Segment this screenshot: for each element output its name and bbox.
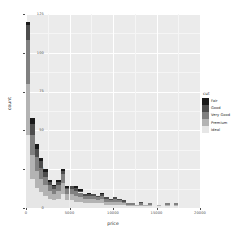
bar-segment — [157, 205, 161, 207]
y-tick-mark — [23, 92, 25, 93]
bar-segment — [100, 194, 104, 196]
y-tick-mark — [23, 53, 25, 54]
bar-segment — [174, 206, 178, 208]
bar-segment — [48, 180, 52, 182]
x-tick-mark — [113, 208, 114, 210]
x-tick-mark — [26, 208, 27, 210]
legend-key — [202, 105, 209, 112]
legend-swatch-icon — [202, 126, 209, 133]
x-tick-label: 20000 — [188, 211, 212, 215]
bar-segment — [100, 193, 104, 195]
bar-segment — [43, 172, 47, 177]
legend-title: cut — [203, 91, 245, 96]
x-tick-label: 15000 — [145, 211, 169, 215]
legend-label: Premium — [211, 121, 227, 125]
bar-segment — [61, 171, 65, 174]
bar-series-group — [26, 14, 200, 208]
bar-segment — [139, 202, 143, 204]
x-axis-label: price — [26, 221, 200, 226]
bar-segment — [43, 169, 47, 172]
y-tick-mark — [23, 14, 25, 15]
legend-items: FairGoodVery GoodPremiumIdeal — [202, 98, 245, 134]
bar-segment — [61, 174, 65, 183]
bar-segment — [174, 205, 178, 207]
legend-swatch-icon — [202, 112, 209, 119]
bar-segment — [165, 205, 169, 207]
bar-segment — [30, 118, 34, 124]
plot-panel — [26, 14, 200, 208]
y-tick-label: 125 — [37, 12, 44, 16]
bar-segment — [78, 189, 82, 191]
bar-segment — [26, 25, 30, 41]
legend-key — [202, 119, 209, 126]
x-tick-label: 0 — [14, 211, 38, 215]
y-tick-label: 0 — [42, 206, 44, 210]
bar-segment — [74, 186, 78, 188]
legend-item-fair: Fair — [202, 98, 245, 105]
y-tick-mark — [23, 169, 25, 170]
y-tick-mark — [23, 208, 25, 209]
bar-segment — [30, 124, 34, 135]
bar-segment — [174, 203, 178, 205]
legend-swatch-icon — [202, 119, 209, 126]
bar-segment — [165, 206, 169, 208]
x-tick-mark — [157, 208, 158, 210]
bar-segment — [39, 158, 43, 161]
bar-segment — [78, 191, 82, 193]
y-tick-label: 75 — [39, 89, 44, 93]
legend-label: Good — [211, 106, 221, 110]
y-axis-label: count — [7, 84, 12, 124]
legend-swatch-icon — [202, 98, 209, 105]
x-tick-label: 5000 — [58, 211, 82, 215]
histogram-bar — [174, 203, 178, 208]
histogram-bar — [148, 203, 152, 208]
bar-segment — [35, 149, 39, 157]
legend-item-good: Good — [202, 105, 245, 112]
bar-segment — [26, 40, 30, 83]
x-tick-label: 10000 — [101, 211, 125, 215]
y-tick-label: 50 — [39, 128, 44, 132]
legend-item-very-good: Very Good — [202, 112, 245, 119]
legend-item-ideal: Ideal — [202, 126, 245, 133]
legend-label: Ideal — [211, 128, 220, 132]
bar-segment — [148, 205, 152, 207]
legend-key — [202, 126, 209, 133]
bar-segment — [165, 203, 169, 205]
x-tick-mark — [70, 208, 71, 210]
bar-segment — [35, 144, 39, 149]
bar-segment — [148, 206, 152, 208]
legend: cut FairGoodVery GoodPremiumIdeal — [202, 91, 245, 133]
y-tick-label: 25 — [39, 167, 44, 171]
legend-key — [202, 98, 209, 105]
y-tick-mark — [23, 130, 25, 131]
bar-segment — [26, 22, 30, 25]
legend-swatch-icon — [202, 105, 209, 112]
histogram-bar — [165, 203, 169, 208]
legend-label: Very Good — [211, 113, 230, 117]
chart-root: 0255075100125 05000100001500020000 price… — [0, 0, 245, 240]
bar-segment — [122, 200, 126, 202]
bar-segment — [61, 169, 65, 171]
legend-item-premium: Premium — [202, 119, 245, 126]
legend-key — [202, 112, 209, 119]
y-tick-label: 100 — [37, 51, 44, 55]
bar-segment — [148, 203, 152, 205]
x-tick-mark — [200, 208, 201, 210]
legend-label: Fair — [211, 99, 218, 103]
